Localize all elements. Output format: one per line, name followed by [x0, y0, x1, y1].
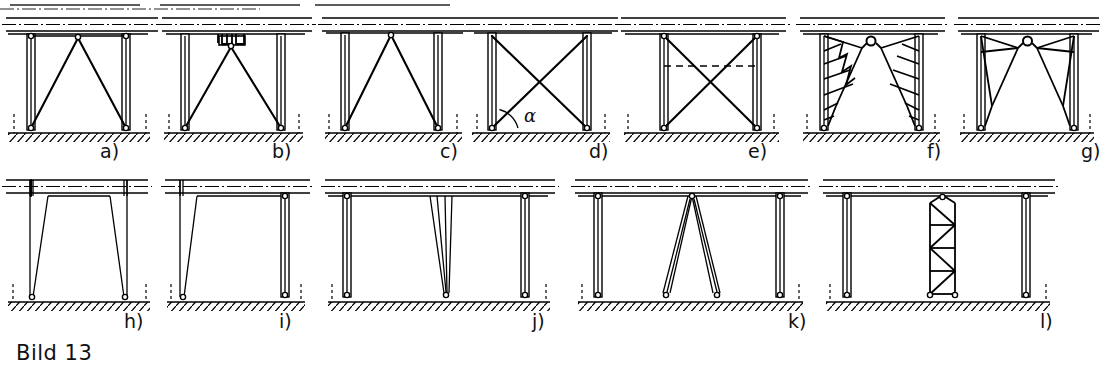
panel-l: l)	[819, 180, 1059, 332]
panel-d-girder	[466, 18, 622, 33]
panel-f-lattice-left	[824, 36, 862, 126]
panel-g-knee-brace-right	[1037, 36, 1074, 126]
panel-e: e)	[617, 18, 790, 162]
panel-d-x-bracing	[492, 36, 587, 128]
panel-label-j: j)	[531, 310, 545, 332]
panel-f-crown-node	[862, 37, 881, 49]
panel-k: k)	[571, 180, 812, 332]
panel-g-girder	[954, 18, 1103, 34]
panel-h-legs	[30, 180, 127, 297]
panel-b-diagonals	[185, 47, 281, 128]
panel-g-columns	[977, 34, 1078, 130]
figure-caption: Bild 13	[16, 341, 92, 365]
panel-h-nodes	[29, 294, 127, 299]
panel-k-foundation	[578, 284, 803, 311]
panel-l-lattice-tower	[930, 196, 955, 294]
panel-label-a: a)	[100, 140, 119, 162]
panel-i-girder	[161, 180, 314, 196]
panel-e-x-bracing	[664, 36, 757, 128]
panel-label-e: e)	[748, 140, 767, 162]
panel-label-h: h)	[124, 310, 143, 332]
panel-c-nodes	[342, 32, 440, 130]
panel-g-knee-brace-left	[981, 36, 1018, 126]
panel-f: f)	[796, 18, 949, 162]
panel-label-k: k)	[788, 310, 806, 332]
panel-j: j)	[321, 180, 559, 332]
panel-d-nodes	[489, 125, 589, 130]
angle-alpha-label: α	[524, 105, 536, 126]
bracing-diagram-svg: .ln{stroke:#000;fill:none;} .girder{stro…	[0, 0, 1103, 373]
panel-b-nodes	[182, 43, 283, 130]
panel-f-nodes	[821, 125, 921, 130]
panel-i-vertical-column	[281, 193, 289, 297]
panel-a-girder	[2, 18, 162, 34]
panel-c-girder	[318, 18, 474, 33]
panel-j-nodes	[344, 193, 527, 297]
panel-i-nodes	[180, 193, 287, 299]
panel-g: g)	[954, 18, 1103, 162]
cropped-row-above	[0, 5, 450, 9]
panel-j-center-pendulum	[430, 196, 452, 293]
panel-h-girder	[2, 180, 152, 196]
panel-g-crown-node	[1018, 37, 1037, 49]
panel-c: c)	[318, 18, 474, 162]
panel-b-girder	[158, 18, 316, 34]
panel-b: b)	[158, 18, 316, 162]
panel-a-nodes	[28, 33, 128, 130]
panel-label-g: g)	[1081, 140, 1100, 162]
panel-g-nodes	[978, 125, 1076, 130]
panel-a-diagonals	[31, 38, 126, 128]
panel-f-columns	[820, 34, 923, 130]
panel-label-b: b)	[272, 140, 291, 162]
panel-label-i: i)	[279, 310, 292, 332]
panel-label-d: d)	[589, 140, 608, 162]
panel-f-girder	[796, 18, 949, 34]
panel-label-f: f)	[927, 140, 941, 162]
panel-j-columns	[343, 193, 529, 297]
panel-l-foundation	[826, 284, 1050, 311]
panel-k-a-frame	[663, 196, 720, 293]
panel-f-lattice-right	[881, 36, 919, 126]
panel-c-diagonals	[345, 35, 438, 128]
panel-a-columns	[27, 34, 130, 130]
panel-a: a)	[2, 18, 162, 162]
panel-label-c: c)	[440, 140, 458, 162]
panel-h: h)	[2, 180, 152, 332]
panel-c-columns	[341, 33, 442, 130]
panel-label-l: l)	[1040, 310, 1053, 332]
panel-e-girder	[617, 18, 790, 34]
panel-j-foundation	[328, 284, 550, 311]
figure-sheet: .ln{stroke:#000;fill:none;} .girder{stro…	[0, 0, 1103, 373]
panel-i: i)	[161, 180, 314, 332]
panel-i-inclined-leg	[180, 180, 197, 297]
panel-d: α d)	[466, 18, 622, 162]
